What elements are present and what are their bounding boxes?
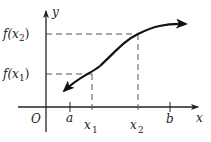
tick-label-x1-sub: 1 [92,125,98,135]
level-label-fx1-main: f(x [2,67,19,81]
tick-label-a: a [66,111,73,125]
tick-label-x2-main: x [130,118,137,132]
tick-label-b: b [166,112,174,126]
level-label-fx1: f(x1) [2,67,29,83]
function-curve-lower [64,66,100,91]
svg-text:f(x1): f(x1) [2,67,29,83]
tick-label-x2: x 2 [130,118,144,135]
tick-label-x1-main: x [84,118,91,132]
level-label-fx2-main: f(x [2,27,19,41]
level-label-fx2: f(x2) [2,27,29,43]
tick-label-x1: x 1 [84,118,98,135]
tick-label-x2-sub: 2 [138,125,144,135]
y-axis-label: y [51,5,59,19]
level-label-fx2-end: ) [25,27,30,41]
function-curve-upper [100,24,186,66]
function-graph-diagram: y x O a x 1 x 2 b f(x2) f(x1) [0,0,211,142]
level-label-fx1-end: ) [25,67,30,81]
origin-label: O [31,112,41,126]
x-axis-label: x [196,111,203,125]
svg-text:f(x2): f(x2) [2,27,29,43]
